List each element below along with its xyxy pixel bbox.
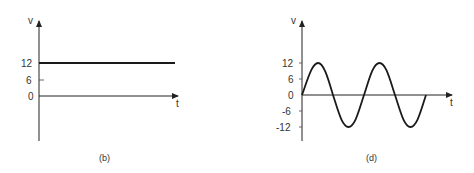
y-axis-label: v — [291, 15, 296, 26]
chart-d: v t 12 6 0 -6 -12 (d) — [276, 15, 453, 163]
x-axis-label: t — [450, 97, 453, 108]
y-tick-label-neg6: -6 — [282, 106, 291, 117]
y-tick-label-neg12: -12 — [276, 122, 291, 133]
x-axis-label: t — [176, 98, 179, 109]
y-tick-label-6: 6 — [26, 75, 32, 86]
caption-b: (b) — [99, 153, 110, 163]
caption-d: (d) — [366, 153, 377, 163]
chart-b: v t 12 6 0 (b) — [21, 15, 179, 163]
figure: v t 12 6 0 (b) v t 12 6 0 -6 -12 (d) — [0, 0, 474, 173]
y-tick-label-6: 6 — [288, 74, 294, 85]
y-tick-label-12: 12 — [21, 58, 33, 69]
y-tick-label-0: 0 — [28, 91, 34, 102]
y-axis-label: v — [28, 15, 33, 26]
y-tick-label-12: 12 — [282, 58, 294, 69]
y-tick-label-0: 0 — [288, 90, 294, 101]
